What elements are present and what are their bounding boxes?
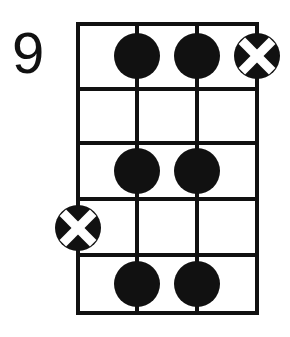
marker-circle-dot-icon (114, 148, 160, 194)
finger-dot-marker-s3-f3 (174, 148, 220, 194)
marker-circle-dot-icon (114, 261, 160, 307)
finger-dot-marker-s2-f5 (114, 261, 160, 307)
marker-circle-dot-icon (174, 261, 220, 307)
marker-circle-dot-icon (174, 33, 220, 79)
chord-grid-svg (0, 0, 290, 337)
muted-x-marker-s4-f1 (234, 33, 280, 79)
finger-dot-marker-s3-f1 (174, 33, 220, 79)
fret-lines-group (78, 24, 257, 313)
muted-x-marker-s1-f4 (55, 205, 101, 251)
finger-dot-marker-s3-f5 (174, 261, 220, 307)
string-lines-group (78, 24, 257, 313)
markers-group (55, 33, 280, 307)
finger-dot-marker-s2-f3 (114, 148, 160, 194)
marker-circle-dot-icon (174, 148, 220, 194)
finger-dot-marker-s2-f1 (114, 33, 160, 79)
marker-circle-dot-icon (114, 33, 160, 79)
